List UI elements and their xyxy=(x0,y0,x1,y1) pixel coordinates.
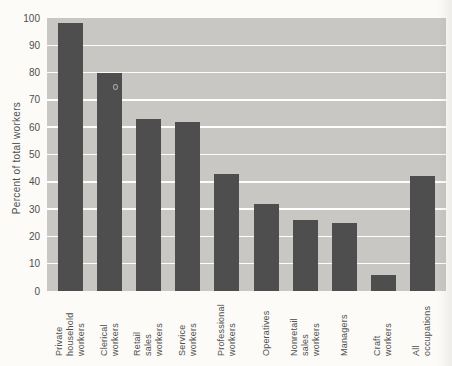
bar xyxy=(410,176,435,291)
bar xyxy=(332,223,357,291)
bar-slot xyxy=(403,176,442,291)
y-tick-label: 0 xyxy=(0,286,40,297)
y-tick-label: 10 xyxy=(0,258,40,269)
bar-slot xyxy=(286,220,325,291)
plot-area xyxy=(47,18,446,291)
bar-slot xyxy=(90,73,129,291)
x-label-slot: Service workers xyxy=(168,292,207,366)
x-label-slot: Private household workers xyxy=(51,292,90,366)
bar-slot xyxy=(246,204,285,291)
x-label-slot: Professional workers xyxy=(207,292,246,366)
x-label-slot: Retail sales workers xyxy=(129,292,168,366)
bar xyxy=(136,119,161,291)
y-tick-label: 60 xyxy=(0,122,40,133)
y-tick-label: 90 xyxy=(0,40,40,51)
scan-artifact-ring xyxy=(113,84,118,90)
bar-slot xyxy=(51,23,90,291)
bar xyxy=(214,174,239,291)
y-tick-label: 40 xyxy=(0,176,40,187)
y-tick-label: 80 xyxy=(0,67,40,78)
y-tick-label: 20 xyxy=(0,231,40,242)
bar-slot xyxy=(129,119,168,291)
y-tick-label: 50 xyxy=(0,149,40,160)
bar xyxy=(175,122,200,291)
y-tick-label: 30 xyxy=(0,204,40,215)
x-category-label: Private household workers xyxy=(54,294,87,356)
x-label-slot: Managers xyxy=(325,292,364,366)
bar xyxy=(58,23,83,291)
bar xyxy=(97,73,122,291)
x-category-label: Professional workers xyxy=(216,294,238,356)
bar xyxy=(293,220,318,291)
x-axis-labels: Private household workersClerical worker… xyxy=(47,292,446,366)
x-label-slot: All occupations xyxy=(403,292,442,366)
x-category-label: Service workers xyxy=(177,294,199,356)
x-category-label: Managers xyxy=(339,294,350,356)
bar xyxy=(254,204,279,291)
bar-slot xyxy=(325,223,364,291)
x-label-slot: Craft workers xyxy=(364,292,403,366)
x-category-label: Retail sales workers xyxy=(132,294,165,356)
x-category-label: All occupations xyxy=(411,294,433,356)
bar-slot xyxy=(168,122,207,291)
x-label-slot: Operatives xyxy=(246,292,285,366)
bar-slot xyxy=(364,275,403,291)
bar xyxy=(371,275,396,291)
x-category-label: Operatives xyxy=(261,294,272,356)
bar-chart-figure: Percent of total workers 010203040506070… xyxy=(0,0,452,366)
y-tick-label: 100 xyxy=(0,13,40,24)
y-tick-label: 70 xyxy=(0,94,40,105)
bars xyxy=(47,18,446,291)
bar-slot xyxy=(207,174,246,291)
x-label-slot: Clerical workers xyxy=(90,292,129,366)
x-category-label: Nonretail sales workers xyxy=(289,294,322,356)
x-label-slot: Nonretail sales workers xyxy=(286,292,325,366)
x-category-label: Clerical workers xyxy=(99,294,121,356)
x-category-label: Craft workers xyxy=(372,294,394,356)
